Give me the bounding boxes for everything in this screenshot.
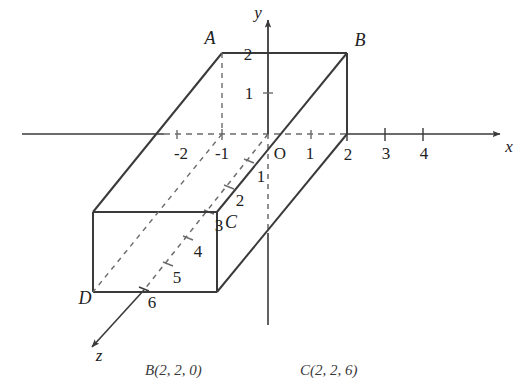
x-axis-name: x [504, 137, 513, 156]
z-tick-label-4: 4 [194, 242, 203, 261]
x-tick-label-3: 3 [382, 144, 391, 163]
vertex-label-B: B [355, 30, 366, 50]
z-tick-2 [224, 185, 234, 189]
vertex-label-A: A [204, 28, 217, 48]
z-tick-label-1: 1 [257, 167, 266, 186]
z-tick-5 [163, 262, 173, 266]
z-tick-1 [244, 159, 254, 163]
figure-page: A B C D y x z O -2 -1 1 2 3 4 1 2 1 2 3 … [0, 0, 526, 379]
box-edge-A-to-topleft [93, 53, 222, 212]
vertex-label-C: C [225, 212, 238, 232]
z-tick-label-5: 5 [173, 268, 182, 287]
box-edge-B-to-C [217, 53, 347, 212]
y-tick-label-1: 1 [245, 84, 254, 103]
y-tick-label-2: 2 [244, 45, 253, 64]
x-tick-label-1: 1 [306, 144, 315, 163]
x-tick-label-4: 4 [420, 144, 429, 163]
caption-point-C: C(2, 2, 6) [300, 362, 358, 379]
vertex-label-D: D [78, 288, 92, 308]
z-axis-solid-arrow [92, 290, 144, 347]
caption-point-B: B(2, 2, 0) [145, 362, 202, 379]
coordinate-system-figure: A B C D y x z O -2 -1 1 2 3 4 1 2 1 2 3 … [0, 0, 526, 379]
origin-label: O [274, 144, 286, 163]
z-tick-label-6: 6 [148, 293, 157, 312]
figure-caption: B(2, 2, 0) C(2, 2, 6) [0, 362, 526, 379]
x-tick-label-neg1: -1 [215, 144, 229, 163]
z-tick-label-2: 2 [236, 191, 245, 210]
x-tick-label-2: 2 [344, 145, 353, 164]
z-tick-label-3: 3 [215, 216, 224, 235]
y-axis-name: y [252, 3, 262, 22]
x-tick-label-neg2: -2 [174, 144, 188, 163]
